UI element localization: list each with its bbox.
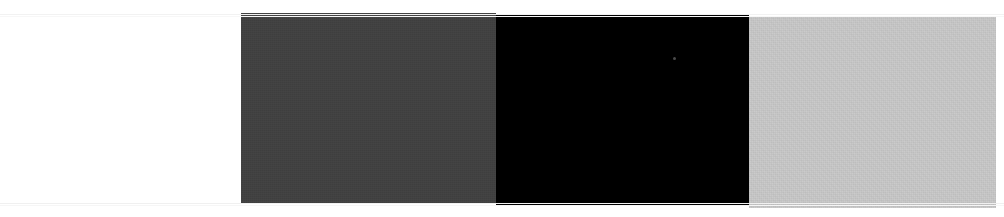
white-band	[0, 0, 241, 217]
image-canvas	[0, 0, 1004, 217]
dark-gray-band	[241, 13, 496, 204]
black-band	[496, 15, 749, 206]
light-gray-band	[749, 17, 996, 208]
